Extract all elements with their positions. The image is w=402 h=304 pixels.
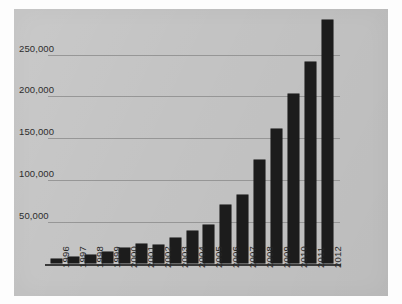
- x-axis-tick-label: 2011: [315, 246, 326, 267]
- x-axis-tick-label: 2000: [128, 246, 139, 268]
- x-axis-tick-label: 2005: [213, 246, 224, 268]
- bar: [288, 94, 299, 264]
- x-axis-tick-label: 2012: [332, 246, 343, 268]
- x-axis-tick-label: 2004: [196, 246, 207, 268]
- bar: [322, 20, 333, 263]
- y-axis-tick-label: 250,000: [19, 43, 54, 54]
- bar: [305, 62, 316, 263]
- x-axis-tick-label: 2007: [247, 246, 258, 268]
- y-axis-tick-label: 50,000: [19, 210, 49, 221]
- x-axis-tick-label: 2008: [264, 246, 275, 268]
- x-axis-tick-label: 2001: [145, 246, 156, 268]
- x-axis-tick-label: 2006: [230, 246, 241, 268]
- bar-chart-plot-area: 50,000100,000150,000200,000250,000 19961…: [0, 0, 402, 304]
- x-axis-line: [45, 264, 341, 266]
- chart-figure: 50,000100,000150,000200,000250,000 19961…: [0, 0, 402, 304]
- x-axis-tick-label: 1996: [60, 246, 71, 268]
- x-axis-tick-label: 1997: [77, 246, 88, 268]
- x-axis-tick-label: 2009: [281, 246, 292, 268]
- bar: [271, 129, 282, 264]
- x-axis-tick-label: 2010: [298, 246, 309, 268]
- x-axis-tick-label: 1998: [94, 246, 105, 268]
- gridline: [48, 55, 340, 56]
- y-axis-tick-label: 150,000: [19, 126, 54, 137]
- y-axis-tick-label: 200,000: [19, 84, 54, 95]
- x-axis-tick-label: 2003: [179, 246, 190, 268]
- y-axis-tick-label: 100,000: [19, 168, 54, 179]
- x-axis-tick-label: 2002: [162, 246, 173, 268]
- x-axis-tick-label: 1999: [111, 246, 122, 268]
